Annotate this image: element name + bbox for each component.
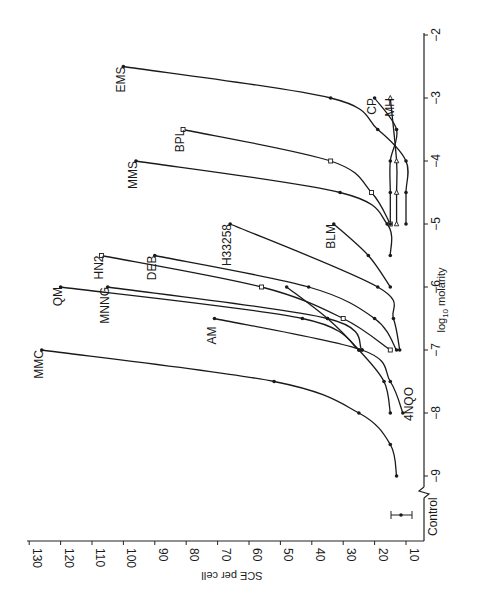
series-labels: MMC4NQOAMQMMNNGHN2DEBH33258BLMMMSBPLEMSC… (32, 67, 416, 422)
point-ems (404, 191, 408, 195)
point-qm (357, 348, 361, 352)
sce-tick-label: 10 (407, 548, 421, 562)
series-label-bpl: BPL (173, 129, 187, 152)
point-mms (389, 254, 393, 258)
series-label-qm: QM (51, 287, 65, 306)
sce-tick-label: 60 (250, 548, 264, 562)
curve-4nqo (287, 287, 391, 413)
molarity-tick-label: −5 (429, 217, 443, 231)
point-cp (395, 128, 399, 132)
sce-tick-label: 110 (93, 548, 107, 567)
point-h33258 (398, 348, 402, 352)
molarity-tick-label: −9 (429, 469, 443, 483)
series-label-mh: MH (383, 98, 397, 117)
molarity-tick-label: −8 (429, 406, 443, 420)
point-mms (338, 191, 342, 195)
point-bpl (369, 191, 373, 195)
point-mh (394, 222, 398, 226)
point-qm (301, 317, 305, 321)
point-mnng (360, 348, 364, 352)
sce-tick-label: 70 (219, 548, 233, 562)
point-4nqo (382, 380, 386, 384)
sce-axis-title: SCE per cell (201, 570, 262, 582)
series-label-4nqo: 4NQO (402, 387, 416, 421)
point-h33258 (376, 285, 380, 289)
series-label-ems: EMS (114, 67, 128, 93)
point-am (213, 317, 217, 321)
control-label: Control (426, 497, 440, 536)
curve-blm (334, 224, 391, 287)
point-ems (404, 222, 408, 226)
point-mmc (389, 443, 393, 447)
svg-text:log10molarity: log10molarity (435, 267, 450, 333)
curve-h33258 (230, 224, 400, 350)
curve-mmc (42, 350, 397, 476)
point-cp (389, 222, 393, 226)
point-hn2 (341, 317, 345, 321)
point-deb (373, 317, 377, 321)
sce-tick-label: 130 (30, 548, 44, 568)
point-ems (329, 96, 333, 100)
series-label-h33258: H33258 (220, 224, 234, 266)
sce-tick-label: 100 (124, 548, 138, 568)
series-label-mms: MMS (126, 161, 140, 189)
molarity-ticks: −9−8−7−6−5−4−3−2 (424, 28, 443, 483)
series-label-hn2: HN2 (92, 255, 106, 279)
sce-tick-label: 90 (156, 548, 170, 562)
series-label-mnng: MNNG (98, 287, 112, 324)
point-mnng (326, 317, 330, 321)
molarity-tick-label: −2 (429, 28, 443, 42)
point-blm (367, 254, 371, 258)
point-deb (307, 285, 311, 289)
point-cp (389, 159, 393, 163)
sce-tick-label: 20 (376, 548, 390, 562)
sce-dose-response-chart: −9−8−7−6−5−4−3−2 10203040506070809010011… (0, 0, 480, 609)
point-mh (394, 159, 398, 163)
point-4nqo (285, 285, 289, 289)
point-ems (376, 128, 380, 132)
point-4nqo (389, 411, 393, 415)
sce-tick-label: 40 (313, 548, 327, 562)
point-mmc (395, 474, 399, 478)
point-mh (394, 190, 398, 194)
point-ems (404, 159, 408, 163)
point-am (389, 380, 393, 384)
point-h33258 (392, 317, 396, 321)
molarity-tick-label: −3 (429, 91, 443, 105)
point-blm (389, 285, 393, 289)
point-mmc (272, 380, 276, 384)
sce-ticks: 102030405060708090100110120130 (29, 541, 421, 568)
point-hn2 (260, 285, 264, 289)
point-cp (389, 191, 393, 195)
series-label-mmc: MMC (32, 350, 46, 379)
control-point (391, 511, 412, 519)
molarity-tick-label: −7 (429, 343, 443, 357)
molarity-axis-title: log10molarity (435, 267, 450, 333)
point-deb (395, 348, 399, 352)
sce-tick-label: 120 (62, 548, 76, 568)
sce-tick-label: 80 (187, 548, 201, 562)
point-bpl (329, 159, 333, 163)
point-hn2 (388, 348, 392, 352)
sce-tick-label: 50 (281, 548, 295, 562)
series-label-am: AM (205, 326, 219, 344)
curve-am (214, 319, 402, 414)
sce-tick-label: 30 (344, 548, 358, 562)
point-mmc (357, 411, 361, 415)
series-label-blm: BLM (324, 224, 338, 249)
molarity-tick-label: −4 (429, 154, 443, 168)
axis-break-mark (419, 487, 429, 498)
series-label-cp: CP (365, 98, 379, 115)
curve-bpl (183, 130, 390, 225)
series-label-deb: DEB (145, 256, 159, 281)
